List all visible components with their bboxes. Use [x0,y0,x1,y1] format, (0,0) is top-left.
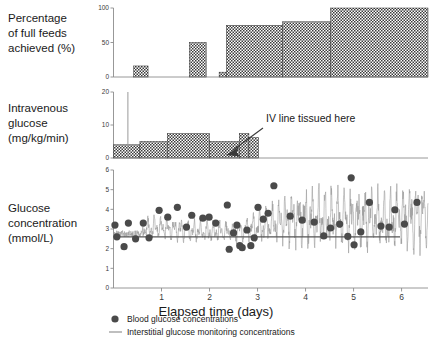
blood-glucose-point-27 [270,182,277,189]
blood-glucose-point-22 [247,242,254,249]
blood-glucose-point-41 [391,206,398,213]
x-tick-label-2: 2 [207,292,212,302]
blood-glucose-point-36 [350,241,357,248]
blood-glucose-point-42 [401,220,408,227]
iv-bar-2 [167,134,209,158]
blood-glucose-point-1 [113,233,120,240]
feeds-y-tick-label-100: 100 [98,4,109,11]
x-tick-label-3: 3 [255,292,260,302]
blood-glucose-point-35 [348,174,355,181]
blood-glucose-point-16 [226,246,233,253]
feeds-y-tick-label-0: 0 [105,73,109,80]
iv-axis-label-line-0: Intravenous [8,102,68,114]
blood-glucose-point-14 [212,220,219,227]
blood-glucose-point-7 [156,207,163,214]
blood-glucose-point-24 [254,204,261,211]
blood-glucose-point-17 [230,229,237,236]
blood-glucose-point-40 [386,223,393,230]
iv-bar-0 [114,145,140,158]
blood-glucose-point-34 [344,233,351,240]
interstitial-glucose-trace [114,183,429,255]
blood-glucose-point-25 [260,216,267,223]
feeds-bar-6 [226,25,282,77]
blood-glucose-point-5 [140,220,147,227]
blood-glucose-point-12 [199,215,206,222]
x-tick-label-4: 4 [303,292,308,302]
iv-y-tick-label-20: 20 [102,88,110,95]
blood-glucose-point-20 [239,244,246,251]
blood-glucose-point-32 [327,224,334,231]
feeds-bar-1 [134,66,148,77]
iv-bar-4 [239,134,249,158]
blood-glucose-point-4 [132,235,139,242]
glucose-axis-label-line-2: (mmol/L) [8,232,54,244]
legend-label-0: Blood glucose concentrations [127,314,238,324]
blood-glucose-point-29 [299,217,306,224]
blood-glucose-point-15 [224,201,231,208]
glucose-axis-label-line-0: Glucose [8,202,50,214]
iv-line-tissued-annotation: IV line tissued here [266,112,355,124]
blood-glucose-point-2 [120,243,127,250]
blood-glucose-point-13 [205,214,212,221]
blood-glucose-point-8 [164,214,171,221]
blood-glucose-point-9 [174,204,181,211]
iv-bar-1 [140,142,167,159]
feeds-axis-label-line-2: achieved (%) [8,42,75,54]
glucose-y-tick-label-6: 6 [105,166,109,173]
iv-y-tick-label-10: 10 [102,121,110,128]
glucose-y-tick-label-4: 4 [105,206,109,213]
blood-glucose-point-43 [413,199,420,206]
blood-glucose-point-38 [366,199,373,206]
iv-y-tick-label-0: 0 [105,154,109,161]
blood-glucose-point-3 [125,220,132,227]
glucose-y-tick-label-3: 3 [105,225,109,232]
glucose-y-tick-label-5: 5 [105,186,109,193]
figure-container: Percentageof full feedsachieved (%)Intra… [0,0,432,350]
multi-panel-chart: Percentageof full feedsachieved (%)Intra… [0,0,432,350]
blood-glucose-point-31 [320,232,327,239]
feeds-axis-label-line-0: Percentage [8,12,67,24]
feeds-bar-5 [219,72,226,77]
x-tick-label-6: 6 [399,292,404,302]
blood-glucose-point-37 [357,228,364,235]
iv-bar-5 [249,138,259,158]
blood-glucose-point-26 [265,210,272,217]
glucose-y-tick-label-1: 1 [105,265,109,272]
feeds-bar-7 [283,22,331,77]
blood-glucose-point-10 [183,223,190,230]
feeds-bar-3 [189,43,206,78]
glucose-y-tick-label-2: 2 [105,245,109,252]
legend-marker-blood-glucose [111,315,118,322]
blood-glucose-point-23 [251,234,258,241]
iv-axis-label-line-1: glucose [8,117,48,129]
feeds-y-tick-label-50: 50 [102,39,110,46]
feeds-axis-label-line-1: of full feeds [8,27,67,39]
glucose-axis-label-line-1: concentration [8,217,77,229]
iv-axis-label-line-2: (mg/kg/min) [8,132,69,144]
blood-glucose-point-30 [311,219,318,226]
feeds-bar-8 [331,8,428,77]
blood-glucose-point-39 [377,222,384,229]
blood-glucose-point-11 [188,212,195,219]
blood-glucose-point-18 [233,221,240,228]
blood-glucose-point-28 [287,213,294,220]
x-tick-label-5: 5 [351,292,356,302]
blood-glucose-point-21 [243,226,250,233]
glucose-y-tick-label-0: 0 [105,284,109,291]
blood-glucose-point-6 [145,234,152,241]
legend-label-1: Interstitial glucose monitoring concentr… [127,327,295,337]
blood-glucose-point-0 [111,221,118,228]
blood-glucose-point-33 [336,220,343,227]
x-tick-label-1: 1 [159,292,164,302]
